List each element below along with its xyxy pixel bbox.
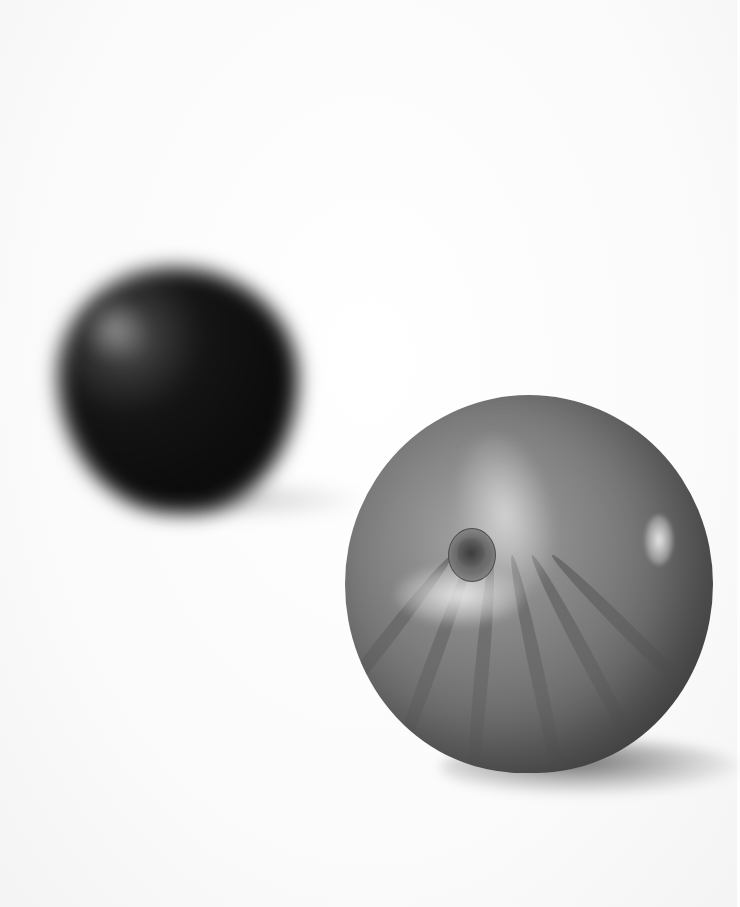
fruit-calyx-center: [457, 538, 485, 568]
background-dark-apple: [58, 268, 298, 513]
background-apple-highlight: [85, 300, 145, 360]
fruit-stripe: [547, 550, 713, 744]
foreground-striped-apple: [345, 395, 713, 773]
fruit-highlight-side: [645, 515, 673, 565]
